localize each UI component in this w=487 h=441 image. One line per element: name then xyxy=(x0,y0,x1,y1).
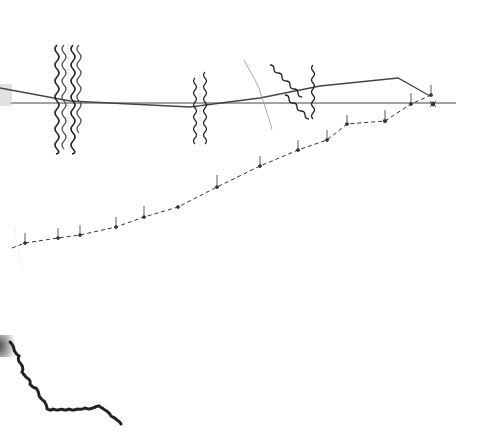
dashed-markers xyxy=(24,85,437,245)
lower-coiled-chain xyxy=(10,342,121,424)
dashed-trajectory-line xyxy=(12,95,431,248)
middle-helix-pair xyxy=(194,72,207,145)
left-edge-shade xyxy=(0,84,12,106)
faint-left-guide xyxy=(14,228,22,270)
faint-wavy-strand xyxy=(244,60,272,130)
diagram-canvas xyxy=(0,0,487,441)
